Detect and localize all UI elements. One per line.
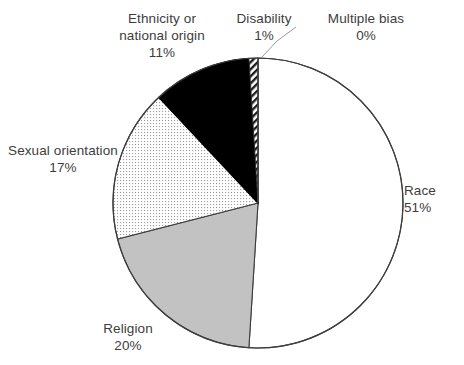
pie-label-religion-line1: Religion <box>88 320 168 337</box>
pie-label-religion-value: 20% <box>88 337 168 354</box>
pie-label-disability: Disability 1% <box>222 10 306 44</box>
pie-label-ethnicity-line1: Ethnicity or <box>98 10 226 27</box>
pie-label-multiple-bias: Multiple bias 0% <box>310 10 422 44</box>
pie-label-race: Race 51% <box>404 182 460 216</box>
pie-chart: Ethnicity or national origin 11% Disabil… <box>0 0 464 365</box>
pie-slice-race <box>249 58 403 348</box>
pie-chart-canvas <box>0 0 464 365</box>
pie-label-disability-value: 1% <box>222 27 306 44</box>
pie-label-race-value: 51% <box>404 199 460 216</box>
pie-label-ethnicity-value: 11% <box>98 44 226 61</box>
pie-label-ethnicity-line2: national origin <box>98 27 226 44</box>
pie-label-multiple-bias-value: 0% <box>310 27 422 44</box>
pie-label-sexual-orientation-value: 17% <box>4 159 122 176</box>
pie-label-religion: Religion 20% <box>88 320 168 354</box>
pie-label-sexual-orientation-line1: Sexual orientation <box>4 142 122 159</box>
pie-label-sexual-orientation: Sexual orientation 17% <box>4 142 122 176</box>
pie-label-ethnicity: Ethnicity or national origin 11% <box>98 10 226 61</box>
pie-label-disability-line1: Disability <box>222 10 306 27</box>
pie-label-race-line1: Race <box>404 182 460 199</box>
pie-label-multiple-bias-line1: Multiple bias <box>310 10 422 27</box>
